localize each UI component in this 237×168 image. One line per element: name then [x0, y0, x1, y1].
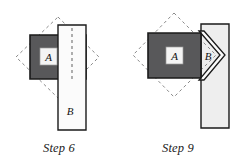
step9-drawing: A B: [119, 0, 237, 141]
step-sequence-figure: A B Step 6 A B Step 9: [0, 0, 237, 168]
label-a: A: [44, 51, 52, 63]
panel-step9: A B Step 9: [119, 0, 237, 168]
panel-step6: A B Step 6: [0, 0, 118, 168]
caption-step6: Step 6: [0, 141, 118, 156]
label-b: B: [67, 105, 74, 117]
label-b: B: [205, 50, 212, 62]
step6-drawing: A B: [0, 0, 118, 141]
label-a: A: [170, 50, 178, 62]
caption-step9: Step 9: [119, 141, 237, 156]
